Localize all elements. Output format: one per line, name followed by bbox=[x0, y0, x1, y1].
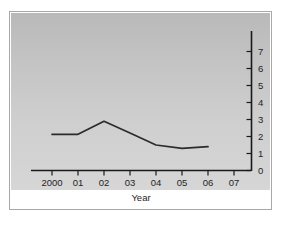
x-tick-label-02: 02 bbox=[99, 177, 110, 188]
x-tick-label-03: 03 bbox=[125, 177, 136, 188]
figure-canvas: 2000 01 02 03 04 05 06 07 0 1 2 3 4 5 6 … bbox=[0, 0, 290, 233]
y-tick-label-2: 2 bbox=[258, 131, 263, 142]
y-tick-label-6: 6 bbox=[258, 63, 263, 74]
x-axis-tick-labels: 2000 01 02 03 04 05 06 07 bbox=[41, 177, 239, 188]
y-tick-label-3: 3 bbox=[258, 114, 263, 125]
x-tick-label-2000: 2000 bbox=[41, 177, 62, 188]
y-tick-label-7: 7 bbox=[258, 46, 263, 57]
x-tick-label-04: 04 bbox=[151, 177, 162, 188]
line-chart: 2000 01 02 03 04 05 06 07 0 1 2 3 4 5 6 … bbox=[0, 0, 290, 233]
x-tick-label-06: 06 bbox=[203, 177, 214, 188]
y-axis-tick-labels: 0 1 2 3 4 5 6 7 bbox=[258, 46, 263, 176]
x-tick-label-07: 07 bbox=[229, 177, 240, 188]
x-tick-label-01: 01 bbox=[73, 177, 84, 188]
y-tick-label-1: 1 bbox=[258, 148, 263, 159]
y-tick-label-4: 4 bbox=[258, 97, 263, 108]
y-tick-label-5: 5 bbox=[258, 80, 263, 91]
x-axis-title: Year bbox=[131, 192, 150, 203]
y-tick-label-0: 0 bbox=[258, 165, 263, 176]
x-tick-label-05: 05 bbox=[177, 177, 188, 188]
data-series-line bbox=[52, 121, 208, 148]
